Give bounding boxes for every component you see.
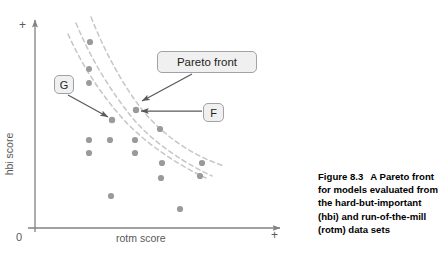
data-point <box>199 160 205 166</box>
data-point <box>157 126 163 132</box>
data-point <box>132 150 138 156</box>
data-point <box>86 150 92 156</box>
data-point <box>87 39 93 45</box>
x-axis-zero-tick: 0 <box>16 231 22 243</box>
plot-canvas <box>0 0 300 262</box>
figure-container: + 0 + rotm score hbi score G F Pareto fr… <box>0 0 448 262</box>
data-point <box>197 173 203 179</box>
data-point-f <box>133 107 139 113</box>
data-point <box>107 137 113 143</box>
data-point-g <box>109 117 115 123</box>
scatter-plot: + 0 + rotm score hbi score G F Pareto fr… <box>0 0 300 262</box>
y-axis-plus-tick: + <box>19 18 26 32</box>
data-point <box>108 193 114 199</box>
data-point <box>159 160 165 166</box>
data-point <box>177 206 183 212</box>
arrow-g-to-point <box>68 95 108 117</box>
data-point <box>86 80 92 86</box>
arrow-pareto-to-front <box>142 74 192 101</box>
data-point <box>86 66 92 72</box>
figure-caption: Figure 8.3A Pareto front for models eval… <box>318 170 442 236</box>
callout-label-pareto-front: Pareto front <box>157 51 257 73</box>
y-axis-title: hbi score <box>3 133 15 176</box>
callout-label-g: G <box>54 75 74 94</box>
data-point <box>86 137 92 143</box>
data-point <box>158 175 164 181</box>
x-axis-plus-tick: + <box>271 228 278 242</box>
pareto-curve-inner <box>91 17 224 166</box>
data-point <box>132 137 138 143</box>
callout-label-f: F <box>203 103 224 122</box>
x-axis-title: rotm score <box>116 232 166 244</box>
figure-caption-number: Figure 8.3 <box>318 171 363 182</box>
